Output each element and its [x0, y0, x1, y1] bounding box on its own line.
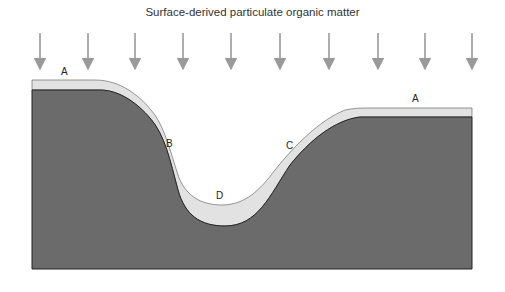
- label-b: B: [166, 138, 173, 149]
- label-a-right: A: [412, 93, 419, 104]
- seafloor-cross-section: [0, 0, 505, 292]
- label-d: D: [216, 190, 223, 201]
- rock-substrate: [32, 90, 472, 269]
- label-c: C: [286, 140, 293, 151]
- label-a-left: A: [61, 66, 68, 77]
- organic-matter-arrows: [40, 33, 472, 64]
